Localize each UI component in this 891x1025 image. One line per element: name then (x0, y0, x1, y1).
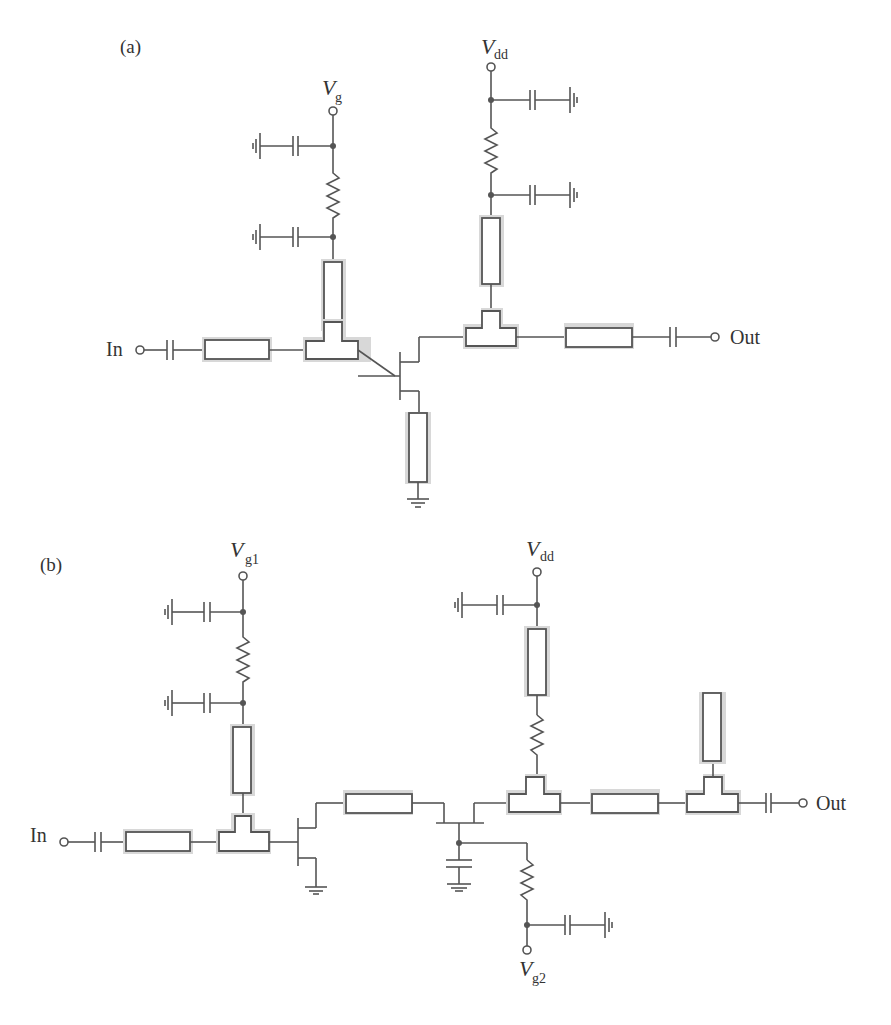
vg-terminal (329, 107, 337, 115)
ground-icon (407, 499, 429, 507)
t-junction (509, 777, 560, 812)
transmission-line (592, 794, 658, 813)
resistor (521, 860, 533, 925)
transmission-line (205, 340, 269, 359)
vg1-label: V (230, 537, 246, 562)
transmission-line (346, 794, 412, 813)
drain-bias-network: V dd (455, 536, 554, 777)
ground-icon (165, 690, 172, 716)
ground-icon (253, 133, 260, 159)
transmission-line (233, 727, 251, 793)
input-network: In (106, 319, 395, 376)
t-junction (687, 777, 738, 812)
gate1-bias-network: V g1 (165, 537, 259, 816)
t-junction (306, 322, 358, 359)
transmission-line (324, 262, 342, 328)
transmission-line (482, 218, 500, 284)
vdd-subscript: dd (540, 549, 554, 564)
drain-bias-network: V dd (479, 34, 577, 311)
input-terminal (60, 838, 68, 846)
fet-transistor-2: V g2 (436, 803, 612, 986)
input-network: In (30, 813, 298, 854)
vdd-terminal (487, 63, 495, 71)
resistor (531, 715, 543, 777)
transmission-line (409, 413, 427, 482)
fet-transistor-1 (298, 803, 346, 894)
output-label: Out (816, 792, 846, 814)
input-label: In (30, 824, 47, 846)
output-label: Out (730, 326, 760, 348)
vdd-terminal (533, 568, 541, 576)
ground-icon (455, 592, 462, 618)
panel-b: (b) V g1 (30, 536, 846, 986)
t-junction (219, 816, 269, 851)
t-junction (466, 311, 516, 346)
output-network: Out (463, 308, 760, 349)
vg-subscript: g (335, 90, 342, 105)
panel-b-label: (b) (40, 554, 62, 576)
vg1-subscript: g1 (245, 552, 259, 567)
output-terminal (711, 333, 719, 341)
ground-icon (570, 182, 577, 208)
ground-icon (605, 912, 612, 938)
vg1-terminal (239, 572, 247, 580)
transmission-line (126, 832, 190, 851)
open-stub (703, 693, 721, 761)
transmission-line (528, 629, 546, 695)
transmission-line (566, 328, 632, 347)
input-label: In (106, 338, 123, 360)
input-terminal (136, 346, 144, 354)
ground-icon (570, 87, 577, 113)
ground-icon (447, 884, 471, 891)
circuit-schematic: (a) V g (0, 0, 891, 1025)
resistor (327, 170, 339, 237)
panel-a-label: (a) (120, 36, 141, 58)
output-terminal (799, 799, 807, 807)
vg2-subscript: g2 (532, 971, 546, 986)
resistor (237, 636, 249, 703)
panel-a: (a) V g (106, 34, 760, 507)
ground-icon (165, 599, 172, 625)
output-network: Out (506, 692, 846, 815)
ground-icon (305, 887, 327, 894)
resistor (485, 126, 497, 195)
fet-transistor (358, 337, 467, 507)
vg2-terminal (523, 946, 531, 954)
ground-icon (253, 224, 260, 250)
vdd-subscript: dd (494, 47, 508, 62)
gate-bias-network: V g (253, 75, 346, 350)
